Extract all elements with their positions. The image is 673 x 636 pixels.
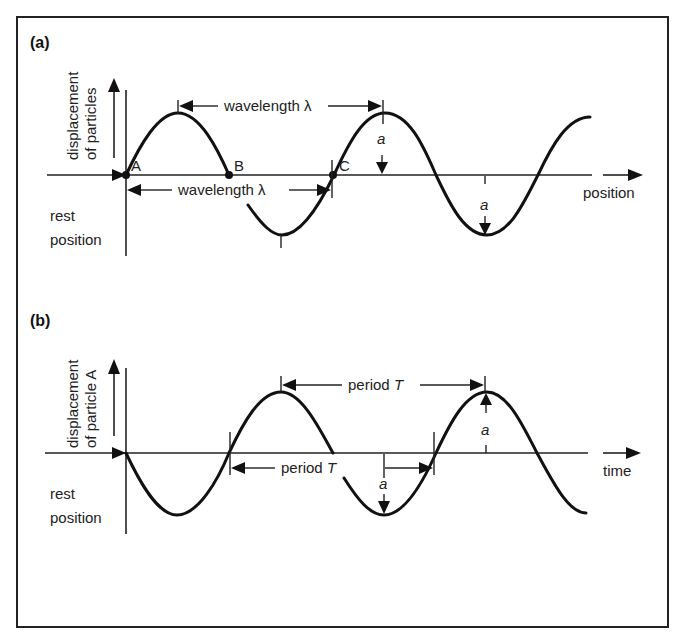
amplitude-crest-label: a: [481, 421, 489, 438]
panel-a: (a) displacement of particles position r…: [30, 34, 643, 256]
point-a: [122, 171, 130, 179]
panel-a-label: (a): [30, 34, 50, 51]
amplitude-trough-label: a: [480, 196, 488, 213]
panel-b-rest-label-line1: rest: [50, 485, 76, 502]
point-b: [225, 171, 233, 179]
position-axis-label: position: [583, 184, 635, 201]
panel-b-label: (b): [30, 312, 50, 329]
period-lower-label: period T: [281, 459, 338, 476]
panel-b: (b) displacement of particle A time rest…: [30, 312, 641, 534]
panel-a-y-label-line1: displacement: [64, 71, 81, 160]
panel-b-y-label-line1: displacement: [64, 359, 81, 448]
wave-diagram: (a) displacement of particles position r…: [0, 0, 673, 636]
point-a-label: A: [131, 157, 141, 174]
panel-b-y-label-line2: of particle A: [82, 370, 99, 448]
displacement-up-arrow-icon: [108, 78, 120, 158]
panel-a-wave: [126, 113, 590, 235]
wavelength-lower-label: wavelength λ: [177, 181, 266, 198]
panel-a-rest-label-line2: position: [50, 231, 102, 248]
point-c: [329, 171, 337, 179]
panel-a-rest-label-line1: rest: [50, 207, 76, 224]
amplitude-crest-label: a: [377, 130, 385, 147]
wavelength-upper-label: wavelength λ: [223, 97, 312, 114]
point-b-label: B: [234, 157, 244, 174]
panel-b-rest-label-line2: position: [50, 509, 102, 526]
panel-a-y-label-line2: of particles: [82, 87, 99, 160]
axis-entry-arrow-icon: [112, 447, 126, 459]
time-axis-label: time: [603, 462, 631, 479]
amplitude-crest-indicator: [376, 155, 388, 174]
amplitude-trough-label: a: [379, 475, 387, 492]
time-arrow-icon: [603, 447, 641, 459]
position-arrow-icon: [603, 169, 643, 181]
displacement-up-arrow-icon: [108, 359, 120, 436]
point-c-label: C: [339, 157, 350, 174]
period-upper-label: period T: [348, 376, 405, 393]
